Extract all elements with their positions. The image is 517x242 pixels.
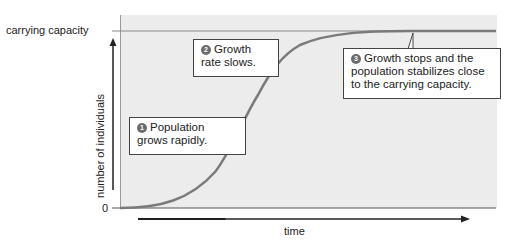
- callout-text: grows rapidly.: [137, 134, 207, 146]
- x-axis-label: time: [284, 225, 305, 237]
- step-2-badge: 2: [201, 45, 211, 55]
- callout-text: rate slows.: [201, 56, 256, 68]
- callout-text: to the carrying capacity.: [351, 78, 472, 90]
- callout-growth-stops: 3Growth stops and the population stabili…: [343, 48, 501, 99]
- callout-text: Growth stops and the: [364, 52, 473, 64]
- step-3-badge: 3: [351, 54, 361, 64]
- x-axis-arrowhead-icon: [461, 216, 470, 223]
- y-axis-label: number of individuals: [94, 86, 106, 206]
- y-axis-arrowhead-icon: [110, 38, 117, 46]
- callout-population-grows: 1Population grows rapidly.: [129, 117, 246, 155]
- callout-text: Population: [150, 121, 204, 133]
- callout-3-pointer: [408, 33, 413, 49]
- step-1-badge: 1: [137, 123, 147, 133]
- callout-growth-slows: 2Growth rate slows.: [193, 39, 279, 77]
- carrying-capacity-label: carrying capacity: [6, 24, 89, 36]
- callout-text: population stabilizes close: [351, 65, 485, 77]
- logistic-curve-chart: [0, 0, 517, 242]
- callout-text: Growth: [214, 43, 251, 55]
